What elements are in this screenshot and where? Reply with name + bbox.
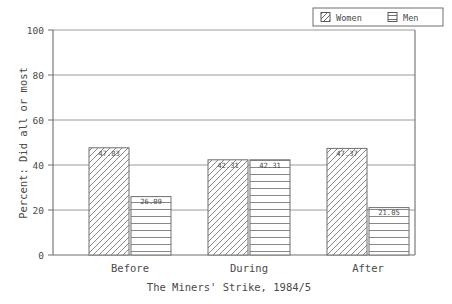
- x-axis-title: The Miners' Strike, 1984/5: [147, 281, 311, 293]
- x-tick-label-before: Before: [111, 262, 149, 274]
- y-tick-label-60: 60: [33, 115, 45, 126]
- bar-value-during-men: 42.31: [259, 161, 281, 170]
- bar-group-after: 47.37 21.05: [327, 148, 409, 255]
- bar-value-after-men: 21.05: [378, 208, 400, 217]
- bar-group-before: 47.83 26.09: [89, 148, 171, 255]
- bar-group-during: 42.31 42.31: [208, 160, 290, 255]
- bar-before-women[interactable]: [89, 148, 129, 255]
- y-axis-title: Percent: Did all or most: [17, 67, 29, 219]
- y-tick-label-100: 100: [27, 25, 44, 36]
- bar-during-men[interactable]: [250, 160, 290, 255]
- legend-box: [313, 8, 443, 26]
- bar-value-during-women: 42.31: [217, 161, 239, 170]
- legend-entry-men[interactable]: Men: [388, 13, 419, 23]
- y-tick-marks: [48, 30, 53, 255]
- bar-value-before-men: 26.09: [140, 197, 162, 206]
- y-tick-label-20: 20: [33, 205, 45, 216]
- legend-entry-women[interactable]: Women: [321, 13, 362, 23]
- legend[interactable]: Women Men: [313, 8, 443, 26]
- legend-label-women: Women: [336, 13, 362, 23]
- x-tick-label-after: After: [352, 262, 384, 274]
- bar-after-women[interactable]: [327, 148, 367, 255]
- legend-swatch-women-icon: [321, 13, 330, 22]
- bar-value-before-women: 47.83: [98, 149, 120, 158]
- bar-chart: 100 80 60 40 20 0 Percent: Did all or mo…: [0, 0, 452, 304]
- chart-canvas: 100 80 60 40 20 0 Percent: Did all or mo…: [0, 0, 452, 304]
- legend-label-men: Men: [403, 13, 419, 23]
- bar-value-after-women: 47.37: [336, 149, 358, 158]
- y-tick-label-80: 80: [33, 70, 45, 81]
- legend-swatch-men-icon: [388, 13, 397, 22]
- y-tick-label-40: 40: [33, 160, 45, 171]
- y-tick-label-0: 0: [38, 250, 44, 261]
- x-tick-label-during: During: [230, 262, 268, 274]
- bar-during-women[interactable]: [208, 160, 248, 255]
